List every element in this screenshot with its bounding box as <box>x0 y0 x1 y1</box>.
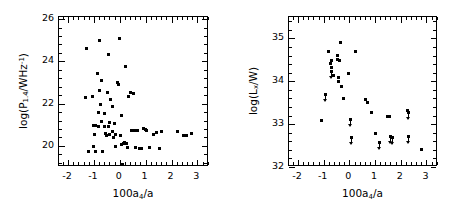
data-point <box>370 111 373 114</box>
x-major-tick <box>197 160 198 166</box>
x-tick-label: -1 <box>88 171 97 181</box>
y-minor-tick-right <box>433 133 436 134</box>
x-tick-label: -2 <box>62 171 71 181</box>
x-major-tick-top <box>146 17 147 23</box>
y-minor-tick-right <box>433 21 436 22</box>
x-major-tick <box>375 160 376 166</box>
data-point <box>108 121 111 124</box>
x-minor-tick <box>432 162 433 165</box>
x-major-tick-top <box>298 17 299 23</box>
x-minor-tick <box>303 162 304 165</box>
x-major-tick <box>349 160 350 166</box>
y-major-tick-right <box>431 81 437 82</box>
x-tick-label: 3 <box>422 171 428 181</box>
x-minor-tick <box>182 162 183 165</box>
x-minor-tick-top <box>308 17 309 20</box>
data-point <box>126 146 129 149</box>
y-major-tick-right <box>202 19 208 20</box>
y-minor-tick-right <box>204 137 207 138</box>
data-point <box>84 96 87 99</box>
x-major-tick-top <box>324 17 325 23</box>
x-minor-tick <box>313 162 314 165</box>
upper-limit-arrow-icon <box>392 139 393 144</box>
data-point <box>114 133 117 136</box>
x-tick-label: 0 <box>116 171 122 181</box>
data-point <box>105 134 108 137</box>
x-minor-tick <box>385 162 386 165</box>
y-minor-tick <box>59 70 62 71</box>
data-point <box>113 122 116 125</box>
x-minor-tick-top <box>319 17 320 20</box>
x-minor-tick-top <box>192 17 193 20</box>
x-minor-tick <box>104 162 105 165</box>
y-minor-tick <box>289 158 292 159</box>
x-minor-tick <box>135 162 136 165</box>
x-minor-tick <box>360 162 361 165</box>
x-minor-tick <box>208 162 209 165</box>
x-minor-tick <box>380 162 381 165</box>
x-major-tick-top <box>375 17 376 23</box>
x-minor-tick <box>140 162 141 165</box>
x-minor-tick-top <box>416 17 417 20</box>
x-minor-tick-top <box>303 17 304 20</box>
x-major-tick <box>68 160 69 166</box>
data-point <box>327 50 330 53</box>
data-point <box>99 103 102 106</box>
data-point <box>109 98 112 101</box>
data-point <box>160 130 163 133</box>
y-minor-tick-right <box>204 121 207 122</box>
right-plot-frame <box>288 16 437 166</box>
data-point <box>112 136 115 139</box>
x-major-tick-top <box>426 17 427 23</box>
x-tick-label: 1 <box>371 171 377 181</box>
x-minor-tick-top <box>437 17 438 20</box>
y-major-tick <box>289 124 295 125</box>
y-minor-tick-right <box>433 150 436 151</box>
y-minor-tick <box>289 21 292 22</box>
x-minor-tick <box>63 162 64 165</box>
y-major-tick <box>289 38 295 39</box>
x-minor-tick <box>319 162 320 165</box>
y-minor-tick <box>59 137 62 138</box>
y-minor-tick <box>289 90 292 91</box>
y-major-tick <box>289 167 295 168</box>
data-point <box>94 150 97 153</box>
data-point <box>145 129 148 132</box>
data-point <box>111 105 114 108</box>
x-minor-tick <box>125 162 126 165</box>
y-minor-tick <box>289 107 292 108</box>
y-minor-tick <box>59 36 62 37</box>
x-minor-tick <box>339 162 340 165</box>
data-point <box>347 72 350 75</box>
data-point <box>101 150 104 153</box>
y-minor-tick-right <box>204 87 207 88</box>
x-minor-tick-top <box>406 17 407 20</box>
data-point <box>140 147 143 150</box>
x-minor-tick <box>411 162 412 165</box>
data-point <box>332 74 335 77</box>
x-minor-tick <box>73 162 74 165</box>
y-major-tick <box>59 19 65 20</box>
y-minor-tick-right <box>204 53 207 54</box>
y-minor-tick <box>59 112 62 113</box>
y-major-tick-right <box>202 104 208 105</box>
x-tick-label: 0 <box>345 171 351 181</box>
y-minor-tick <box>59 154 62 155</box>
x-minor-tick-top <box>109 17 110 20</box>
data-point <box>96 72 99 75</box>
data-point <box>120 114 123 117</box>
x-minor-tick-top <box>125 17 126 20</box>
x-minor-tick <box>396 162 397 165</box>
x-minor-tick-top <box>89 17 90 20</box>
x-minor-tick-top <box>411 17 412 20</box>
y-minor-tick <box>289 73 292 74</box>
y-minor-tick <box>289 47 292 48</box>
x-minor-tick <box>390 162 391 165</box>
x-minor-tick-top <box>329 17 330 20</box>
x-minor-tick-top <box>421 17 422 20</box>
x-minor-tick <box>416 162 417 165</box>
right-x-axis-title: 100a4/a <box>342 188 383 201</box>
x-major-tick-top <box>172 17 173 23</box>
y-minor-tick-right <box>433 64 436 65</box>
y-major-tick-right <box>202 61 208 62</box>
